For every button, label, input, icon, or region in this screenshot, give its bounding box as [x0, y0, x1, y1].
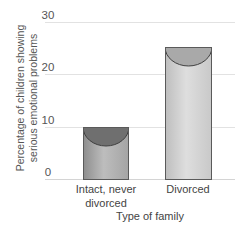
x-category-intact: Intact, never divorced: [66, 182, 146, 210]
bar-divorced: [165, 47, 212, 180]
bar-top-cap-icon: [165, 47, 212, 69]
x-category-divorced-line-1: Divorced: [148, 182, 228, 196]
y-axis-label-line-2: serious emotional problems: [27, 24, 40, 172]
bar-top-cap-icon: [83, 127, 129, 149]
x-category-intact-line-1: Intact, never: [66, 182, 146, 196]
bar-chart: Percentage of children showing serious e…: [0, 0, 243, 228]
x-axis-label: Type of family: [90, 210, 210, 222]
bar-intact-never-divorced: [83, 127, 129, 180]
x-category-intact-line-2: divorced: [66, 196, 146, 210]
y-tick-20: 20: [36, 61, 60, 73]
gridline-30: [45, 22, 235, 23]
x-category-divorced: Divorced: [148, 182, 228, 196]
y-axis-label-line-1: Percentage of children showing: [14, 24, 27, 172]
y-tick-30: 30: [36, 9, 60, 21]
y-tick-0: 0: [36, 166, 60, 178]
y-axis-label: Percentage of children showing serious e…: [14, 24, 42, 172]
y-tick-10: 10: [36, 114, 60, 126]
